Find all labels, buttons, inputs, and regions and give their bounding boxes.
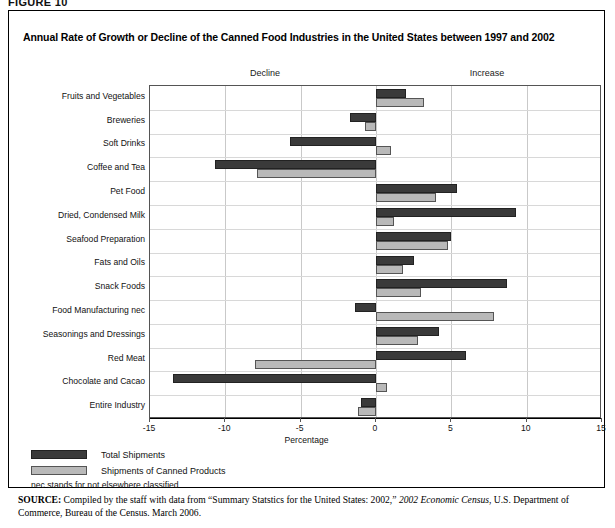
category-label: Seafood Preparation (15, 234, 145, 244)
bar-breweries-total (350, 113, 376, 122)
legend-label-canned-products: Shipments of Canned Products (101, 466, 226, 476)
gridline-horizontal (150, 276, 600, 277)
source-prefix: SOURCE: (18, 494, 61, 505)
category-label: Seasonings and Dressings (15, 329, 145, 339)
bar-soft-drinks-canned (376, 146, 391, 155)
gridline-horizontal (150, 205, 600, 206)
legend-item-total: Total Shipments (31, 448, 226, 461)
bar-fats-and-oils-canned (376, 265, 403, 274)
bar-dried-condensed-milk-canned (376, 217, 394, 226)
tick-mark (224, 418, 225, 422)
increase-label: Increase (447, 68, 527, 78)
gridline-horizontal (150, 157, 600, 158)
category-label: Food Manufacturing nec (15, 305, 145, 315)
legend: Total Shipments Shipments of Canned Prod… (31, 448, 226, 480)
bar-fruits-and-vegetables-total (376, 89, 406, 98)
x-tick-label: 5 (430, 423, 470, 433)
plot-area (149, 85, 601, 418)
gridline-horizontal (150, 324, 600, 325)
gridline-horizontal (150, 110, 600, 111)
category-label: Dried, Condensed Milk (15, 210, 145, 220)
x-tick-label: 0 (355, 423, 395, 433)
tick-mark (149, 418, 150, 422)
x-tick-label: 10 (506, 423, 546, 433)
x-tick-label: 15 (581, 423, 615, 433)
gridline-vertical (225, 86, 226, 417)
category-label: Snack Foods (15, 281, 145, 291)
source-italic: 2002 Economic Census (399, 494, 489, 505)
decline-label: Decline (225, 68, 305, 78)
bar-entire-industry-canned (358, 407, 376, 416)
bar-entire-industry-total (361, 398, 376, 407)
gridline-horizontal (150, 134, 600, 135)
tick-mark (300, 418, 301, 422)
bar-coffee-and-tea-canned (257, 169, 376, 178)
bar-chocolate-and-cacao-total (173, 374, 376, 383)
tick-mark (375, 418, 376, 422)
gridline-horizontal (150, 181, 600, 182)
bar-food-manufacturing-nec-total (355, 303, 376, 312)
gridline-horizontal (150, 300, 600, 301)
tick-mark (450, 418, 451, 422)
x-tick-label: -15 (129, 423, 169, 433)
x-tick-label: -10 (204, 423, 244, 433)
legend-swatch-canned-products (31, 466, 87, 475)
bar-seasonings-and-dressings-total (376, 327, 439, 336)
chart-title: Annual Rate of Growth or Decline of the … (23, 31, 555, 43)
bar-coffee-and-tea-total (215, 160, 376, 169)
tick-mark (526, 418, 527, 422)
bar-red-meat-canned (255, 360, 376, 369)
category-label: Chocolate and Cacao (15, 376, 145, 386)
bar-food-manufacturing-nec-canned (376, 312, 494, 321)
bar-pet-food-canned (376, 193, 436, 202)
category-label: Fats and Oils (15, 257, 145, 267)
category-label: Breweries (15, 115, 145, 125)
bar-red-meat-total (376, 351, 466, 360)
bar-pet-food-total (376, 184, 457, 193)
gridline-vertical (527, 86, 528, 417)
bar-breweries-canned (365, 122, 376, 131)
figure-label: FIGURE 10 (8, 0, 68, 8)
source-text-1: Compiled by the staff with data from “Su… (61, 494, 399, 505)
x-tick-label: -5 (280, 423, 320, 433)
category-label: Red Meat (15, 353, 145, 363)
bar-fruits-and-vegetables-canned (376, 98, 424, 107)
gridline-vertical (451, 86, 452, 417)
category-axis: Fruits and VegetablesBreweriesSoft Drink… (9, 85, 145, 418)
gridline-vertical (376, 86, 377, 417)
tick-mark (601, 418, 602, 422)
legend-item-canned: Shipments of Canned Products (31, 464, 226, 477)
category-label: Entire Industry (15, 400, 145, 410)
bar-seasonings-and-dressings-canned (376, 336, 418, 345)
legend-note: nec stands for not elsewhere classified (31, 480, 179, 490)
category-label: Soft Drinks (15, 138, 145, 148)
legend-label-total-shipments: Total Shipments (101, 450, 165, 460)
category-label: Fruits and Vegetables (15, 91, 145, 101)
source-note: SOURCE: Compiled by the staff with data … (18, 494, 603, 519)
bar-soft-drinks-total (290, 137, 376, 146)
gridline-horizontal (150, 348, 600, 349)
bar-snack-foods-total (376, 279, 507, 288)
bar-chocolate-and-cacao-canned (376, 383, 387, 392)
x-axis-title: Percentage (9, 435, 604, 445)
bar-seafood-preparation-total (376, 232, 451, 241)
bar-dried-condensed-milk-total (376, 208, 516, 217)
bar-seafood-preparation-canned (376, 241, 448, 250)
bar-fats-and-oils-total (376, 256, 414, 265)
gridline-horizontal (150, 395, 600, 396)
category-label: Pet Food (15, 186, 145, 196)
bar-snack-foods-canned (376, 288, 421, 297)
gridline-horizontal (150, 371, 600, 372)
figure-frame: Annual Rate of Growth or Decline of the … (8, 10, 605, 488)
gridline-horizontal (150, 229, 600, 230)
gridline-horizontal (150, 253, 600, 254)
legend-swatch-total-shipments (31, 450, 87, 459)
category-label: Coffee and Tea (15, 162, 145, 172)
